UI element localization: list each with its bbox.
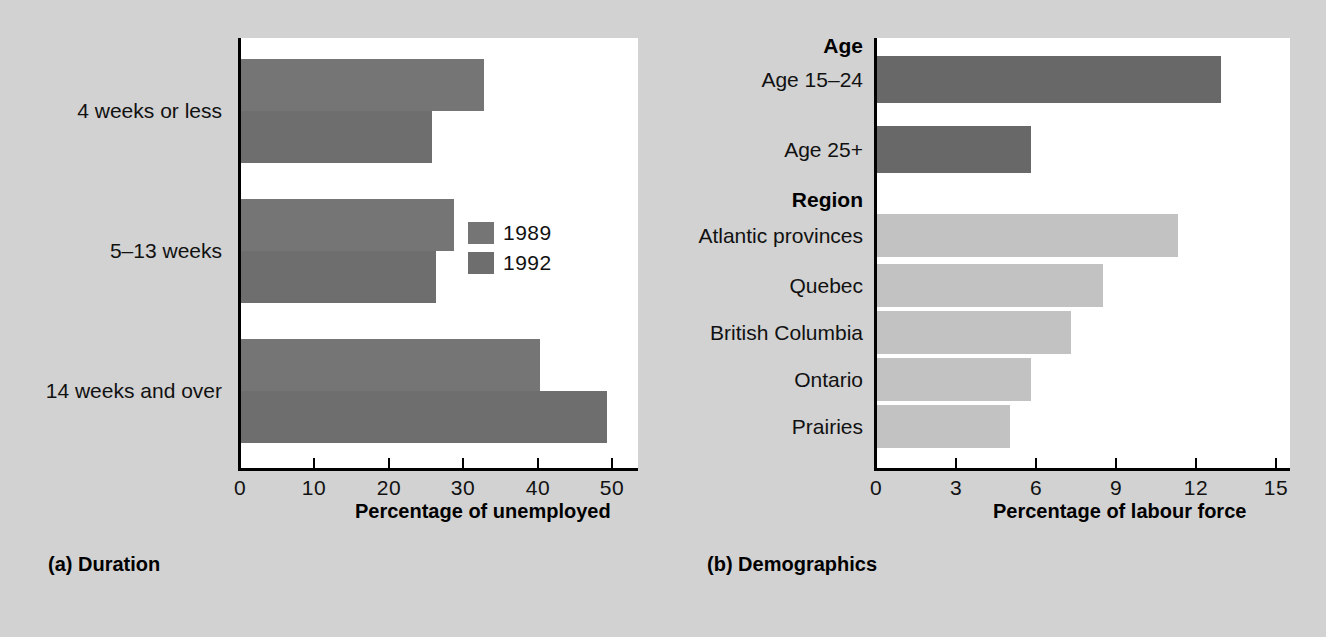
legend-item-1992: 1992 [468, 248, 552, 278]
bar-demographics-age-25-plus [876, 126, 1031, 173]
legend-label-1992: 1992 [503, 251, 552, 275]
x-ticklabel-demographics-12: 12 [1184, 476, 1208, 500]
bar-duration-1992-5-13-weeks [240, 251, 436, 303]
x-tick-duration-50 [611, 458, 613, 469]
x-tick-demographics-12 [1195, 458, 1197, 469]
x-axis-duration [238, 468, 638, 471]
bar-duration-1992-14-weeks-and-over [240, 391, 607, 443]
x-tick-demographics-3 [955, 458, 957, 469]
y-axis-demographics [874, 38, 877, 470]
panel-demographics: 0 3 6 9 12 15 Age Region Age 15–24 Age 2… [663, 0, 1326, 637]
category-label-age-15-24: Age 15–24 [663, 68, 863, 92]
x-tick-duration-20 [388, 458, 390, 469]
panel-caption-duration: (a) Duration [48, 553, 160, 576]
bar-demographics-atlantic-provinces [876, 214, 1178, 257]
x-axis-title-demographics: Percentage of labour force [993, 500, 1246, 523]
legend-label-1989: 1989 [503, 221, 552, 245]
category-label-14-weeks-and-over: 14 weeks and over [0, 379, 222, 403]
bar-duration-1989-5-13-weeks [240, 199, 454, 251]
x-tick-demographics-15 [1275, 458, 1277, 469]
panel-duration: 0 10 20 30 40 50 4 weeks or less 5–13 we… [0, 0, 663, 637]
category-label-4-weeks-or-less: 4 weeks or less [0, 99, 222, 123]
legend-swatch-1989-icon [468, 222, 494, 244]
x-ticklabel-duration-50: 50 [600, 476, 624, 500]
legend-item-1989: 1989 [468, 218, 552, 248]
category-label-age-25-plus: Age 25+ [663, 138, 863, 162]
x-ticklabel-duration-0: 0 [234, 476, 246, 500]
bar-demographics-age-15-24 [876, 56, 1221, 103]
x-ticklabel-demographics-0: 0 [870, 476, 882, 500]
category-label-quebec: Quebec [663, 274, 863, 298]
legend-duration: 1989 1992 [468, 218, 552, 278]
bar-duration-1989-14-weeks-and-over [240, 339, 540, 391]
category-label-british-columbia: British Columbia [663, 321, 863, 345]
x-ticklabel-demographics-9: 9 [1110, 476, 1122, 500]
x-tick-demographics-0 [875, 458, 877, 469]
category-label-prairies: Prairies [663, 415, 863, 439]
bar-duration-1992-4-weeks-or-less [240, 111, 432, 163]
legend-swatch-1992-icon [468, 252, 494, 274]
bar-demographics-ontario [876, 358, 1031, 401]
x-tick-duration-30 [462, 458, 464, 469]
figure-root: 0 10 20 30 40 50 4 weeks or less 5–13 we… [0, 0, 1326, 637]
group-heading-age: Age [663, 34, 863, 58]
category-label-5-13-weeks: 5–13 weeks [0, 239, 222, 263]
x-ticklabel-duration-10: 10 [302, 476, 326, 500]
bar-demographics-british-columbia [876, 311, 1071, 354]
x-ticklabel-demographics-3: 3 [950, 476, 962, 500]
bar-duration-1989-4-weeks-or-less [240, 59, 484, 111]
x-ticklabel-duration-40: 40 [526, 476, 550, 500]
x-tick-demographics-9 [1115, 458, 1117, 469]
bar-demographics-quebec [876, 264, 1103, 307]
x-axis-title-duration: Percentage of unemployed [355, 500, 611, 523]
x-tick-duration-10 [313, 458, 315, 469]
x-tick-duration-0 [239, 458, 241, 469]
x-ticklabel-demographics-6: 6 [1030, 476, 1042, 500]
x-tick-demographics-6 [1035, 458, 1037, 469]
bar-demographics-prairies [876, 405, 1010, 448]
x-axis-demographics [874, 468, 1290, 471]
category-label-ontario: Ontario [663, 368, 863, 392]
x-ticklabel-duration-20: 20 [377, 476, 401, 500]
panel-caption-demographics: (b) Demographics [707, 553, 877, 576]
x-tick-duration-40 [537, 458, 539, 469]
y-axis-duration [238, 38, 241, 470]
group-heading-region: Region [663, 188, 863, 212]
category-label-atlantic-provinces: Atlantic provinces [663, 224, 863, 248]
x-ticklabel-duration-30: 30 [451, 476, 475, 500]
x-ticklabel-demographics-15: 15 [1264, 476, 1288, 500]
